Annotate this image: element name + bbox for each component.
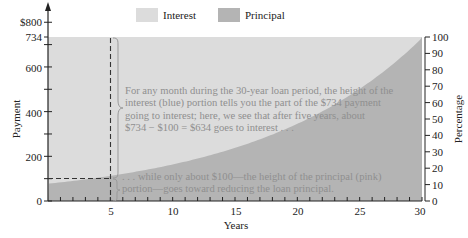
interest-annotation-line: going to interest; here, we see that aft…	[125, 110, 393, 122]
y-tick-label-734: 734	[26, 31, 43, 43]
y2-tick-label-70: 70	[432, 80, 444, 92]
principal-annotation: . . . while only about $100—the height o…	[122, 171, 382, 196]
x-axis-title: Years	[224, 219, 249, 231]
legend-label-interest: Interest	[163, 9, 196, 21]
interest-annotation-line: $734 − $100 = $634 goes to interest . . …	[125, 122, 393, 134]
y2-tick-label-60: 60	[432, 97, 444, 109]
principal-annotation-line: portion—goes toward reducing the loan pr…	[122, 183, 382, 195]
legend-swatch-interest	[136, 8, 158, 22]
y2-axis-title: Percentage	[452, 95, 464, 143]
y-tick-label-400: 400	[26, 107, 43, 119]
x-tick-label-30: 30	[415, 205, 427, 217]
y2-tick-label-50: 50	[432, 113, 444, 125]
y-tick-label-800: $800	[20, 16, 43, 28]
y2-axis-ticks	[425, 37, 430, 201]
principal-annotation-line: . . . while only about $100—the height o…	[122, 171, 382, 183]
x-tick-label-10: 10	[168, 205, 180, 217]
y2-tick-label-40: 40	[432, 129, 444, 141]
y2-tick-label-20: 20	[432, 162, 444, 174]
y-axis-arrow-icon	[45, 2, 51, 11]
y-tick-label-0: 0	[37, 195, 43, 207]
interest-annotation-line: interest (blue) portion tells you the pa…	[125, 97, 393, 109]
y2-tick-label-100: 100	[432, 31, 449, 43]
y2-tick-label-30: 30	[432, 146, 444, 158]
y2-tick-label-80: 80	[432, 64, 444, 76]
y2-tick-label-0: 0	[432, 195, 438, 207]
x-tick-label-20: 20	[293, 205, 305, 217]
x-tick-label-15: 15	[231, 205, 243, 217]
x-tick-label-5: 5	[108, 205, 114, 217]
y2-tick-label-90: 90	[432, 47, 444, 59]
legend-label-principal: Principal	[245, 9, 285, 21]
y-axis-title: Payment	[10, 100, 22, 139]
y2-tick-label-10: 10	[432, 179, 444, 191]
x-tick-label-25: 25	[355, 205, 367, 217]
y-tick-label-200: 200	[26, 151, 43, 163]
legend-swatch-principal	[218, 8, 240, 22]
y-tick-label-600: 600	[26, 62, 43, 74]
interest-annotation-line: For any month during the 30-year loan pe…	[125, 85, 393, 97]
interest-annotation: For any month during the 30-year loan pe…	[125, 85, 393, 135]
